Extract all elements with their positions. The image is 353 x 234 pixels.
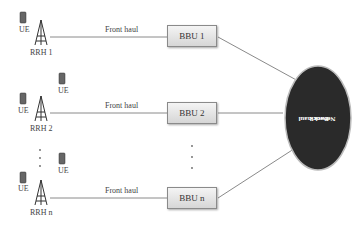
backhaul-line2: Network <box>307 114 337 123</box>
fronthaul-label: Front haul <box>105 186 138 195</box>
fronthaul-label: Front haul <box>105 25 138 34</box>
ue-label: UE <box>18 184 29 193</box>
rrh-label: RRH n <box>30 208 52 217</box>
antenna-tower-icon <box>35 180 47 205</box>
bbu-box: BBU 2 <box>167 102 217 124</box>
backhaul-network-label: Back haulNetwork <box>302 88 334 148</box>
rrh-label: RRH 2 <box>30 124 52 133</box>
ue-label: UE <box>58 166 69 175</box>
bbu-box: BBU 1 <box>167 25 217 47</box>
phone-icon <box>20 12 65 183</box>
bbu-box: BBU n <box>167 187 217 209</box>
fronthaul-label: Front haul <box>105 101 138 110</box>
antenna-tower-icon <box>35 20 47 45</box>
ue-label: UE <box>58 86 69 95</box>
rrh-label: RRH 1 <box>30 48 52 57</box>
ue-label: UE <box>18 106 29 115</box>
antenna-tower-icon <box>35 96 47 121</box>
ue-label: UE <box>19 25 30 34</box>
